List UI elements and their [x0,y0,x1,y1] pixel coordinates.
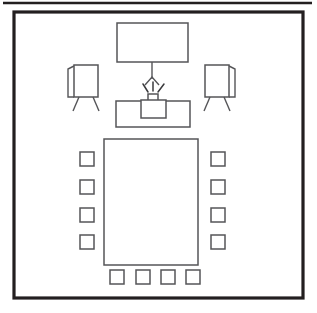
flipchart-easel-left[interactable] [68,65,99,111]
easel-leg-left-1 [73,97,79,111]
chair[interactable] [80,180,94,194]
flipchart-easel-right[interactable] [204,65,235,111]
chair[interactable] [211,208,225,222]
easel-back-flap-left [68,66,74,97]
chair[interactable] [110,270,124,284]
conference-table[interactable] [104,139,198,265]
chair[interactable] [211,235,225,249]
chair-group-left [80,152,94,249]
chair-group-bottom [110,270,200,284]
light-ray-right [158,84,164,92]
chair[interactable] [80,208,94,222]
chair[interactable] [186,270,200,284]
chair[interactable] [211,152,225,166]
easel-back-flap-right [229,66,235,97]
easel-leg-right-1 [204,97,210,111]
chair[interactable] [161,270,175,284]
floorplan-canvas [0,0,317,313]
easel-leg-left-2 [93,97,99,111]
easel-leg-right-2 [224,97,230,111]
chair[interactable] [211,180,225,194]
projector[interactable] [141,100,166,118]
easel-board-right [205,65,229,97]
chair[interactable] [80,235,94,249]
chair[interactable] [80,152,94,166]
projection-screen[interactable] [117,23,188,62]
chair[interactable] [136,270,150,284]
easel-board-left [74,65,98,97]
chair-group-right [211,152,225,249]
